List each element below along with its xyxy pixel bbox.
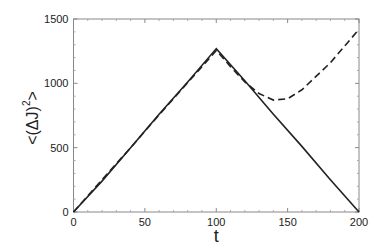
- series-dashed: [74, 29, 360, 212]
- x-axis-label: t: [214, 226, 219, 246]
- x-tick-label: 200: [350, 216, 368, 228]
- series-solid: [74, 49, 360, 212]
- y-tick-label: 1000: [44, 77, 68, 89]
- y-tick-label: 1500: [44, 13, 68, 25]
- y-axis-label: <(ΔJ)2>: [21, 91, 41, 145]
- x-tick-label: 0: [70, 216, 76, 228]
- x-tick-label: 150: [278, 216, 296, 228]
- x-tick-label: 50: [139, 216, 151, 228]
- y-tick-label: 0: [62, 206, 68, 218]
- y-tick-label: 500: [50, 142, 68, 154]
- line-chart: 050100150200050010001500t<(ΔJ)2>: [0, 0, 384, 248]
